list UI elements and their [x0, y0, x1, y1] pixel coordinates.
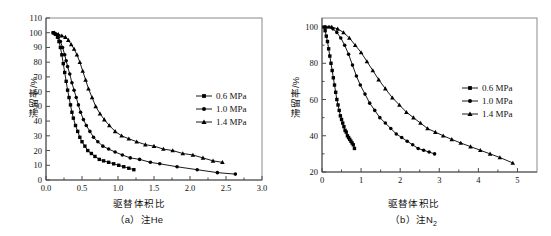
legend-label: 0.6 MPa	[216, 91, 247, 101]
data-point	[112, 162, 115, 165]
data-point	[359, 83, 363, 87]
data-point	[336, 103, 339, 106]
x-tick-label: 2.5	[221, 183, 232, 193]
data-point	[80, 69, 85, 73]
y-tick-label: 40	[310, 131, 319, 141]
y-tick-label: 110	[30, 13, 42, 23]
panel-caption-b-subscript: 2	[433, 220, 437, 227]
data-point	[384, 121, 388, 125]
data-point	[405, 139, 409, 143]
plot-area-b: 012345204060801000.6 MPa1.0 MPa1.4 MPa	[276, 0, 551, 200]
x-tick-label: 0.5	[77, 183, 88, 193]
data-point	[325, 34, 328, 37]
legend-label: 1.4 MPa	[216, 117, 247, 127]
data-point	[328, 54, 331, 57]
data-point	[195, 168, 199, 172]
data-point	[394, 132, 398, 136]
data-point	[102, 159, 105, 162]
data-point	[98, 158, 101, 161]
x-tick-label: 5	[515, 175, 519, 185]
data-point	[77, 103, 81, 107]
data-point	[76, 130, 79, 133]
data-point	[433, 152, 437, 156]
y-axis-title-b: 滞留率/%	[288, 77, 302, 118]
data-point	[329, 62, 332, 65]
legend-label: 1.4 MPa	[482, 109, 513, 119]
y-tick-label: 10	[34, 160, 43, 170]
data-point	[66, 88, 69, 91]
data-point	[416, 147, 420, 151]
legend-label: 1.0 MPa	[482, 96, 513, 106]
x-tick-label: 4	[476, 175, 481, 185]
series-line-1-0-MPa	[325, 27, 434, 154]
series-line-1-4-MPa	[326, 27, 513, 163]
data-point	[138, 158, 142, 162]
data-point	[352, 143, 355, 146]
legend-marker-square	[202, 94, 206, 98]
data-point	[339, 36, 343, 40]
data-point	[117, 164, 120, 167]
data-point	[422, 148, 426, 152]
data-point	[78, 60, 83, 64]
data-point	[61, 46, 65, 50]
data-point	[69, 103, 72, 106]
x-tick-label: 2	[398, 175, 402, 185]
y-tick-label: 90	[34, 42, 43, 52]
legend-marker-circle	[202, 107, 206, 111]
data-point	[92, 136, 96, 140]
data-point	[323, 29, 326, 32]
data-point	[389, 127, 393, 131]
data-point	[74, 96, 78, 100]
panel-caption-b: （b）注N2	[276, 212, 551, 227]
data-point	[347, 52, 351, 56]
panel-caption-a: （a）注He	[0, 212, 278, 226]
x-tick-label: 2.0	[185, 183, 196, 193]
data-point	[96, 140, 100, 144]
data-point	[158, 162, 162, 166]
data-point	[83, 144, 86, 147]
x-axis-title-b: 驱替体积比	[276, 196, 551, 210]
x-tick-label: 1.0	[113, 183, 124, 193]
data-point	[338, 109, 341, 112]
series-line-0-6-MPa	[324, 27, 355, 148]
data-point	[234, 172, 238, 176]
data-point	[128, 156, 132, 160]
data-point	[67, 96, 70, 99]
data-point	[363, 92, 367, 96]
legend-marker-square	[468, 86, 472, 90]
data-point	[72, 116, 75, 119]
data-point	[72, 88, 76, 92]
chart-panel-a: 0.00.51.01.52.02.53.00102030405060708090…	[0, 0, 278, 236]
y-tick-label: 100	[29, 28, 42, 38]
data-point	[340, 118, 343, 121]
y-tick-label: 60	[310, 95, 319, 105]
data-point	[80, 140, 83, 143]
data-point	[373, 109, 377, 113]
data-point	[175, 165, 179, 169]
figure-container: 0.00.51.01.52.02.53.00102030405060708090…	[0, 0, 551, 236]
data-point	[343, 43, 347, 47]
data-point	[335, 31, 339, 35]
data-point	[330, 69, 333, 72]
legend-label: 0.6 MPa	[482, 83, 513, 93]
x-tick-label: 0.0	[41, 183, 52, 193]
data-point	[149, 161, 153, 165]
data-point	[378, 116, 382, 120]
data-point	[86, 86, 91, 90]
data-point	[122, 165, 125, 168]
data-point	[59, 40, 63, 44]
y-tick-label: 20	[34, 146, 43, 156]
x-tick-label: 3	[437, 175, 441, 185]
data-point	[400, 136, 404, 140]
y-axis-title-a: 滞留率/%	[26, 77, 40, 118]
x-tick-label: 1.5	[149, 183, 160, 193]
y-tick-label: 20	[310, 167, 319, 177]
panel-caption-b-text: （b）注N	[390, 214, 433, 225]
data-point	[75, 53, 80, 57]
y-tick-label: 30	[34, 131, 43, 141]
data-point	[339, 114, 342, 117]
data-point	[327, 47, 330, 50]
data-point	[85, 124, 89, 128]
chart-panel-b: 012345204060801000.6 MPa1.0 MPa1.4 MPa 驱…	[276, 0, 551, 236]
y-tick-label: 100	[305, 22, 318, 32]
